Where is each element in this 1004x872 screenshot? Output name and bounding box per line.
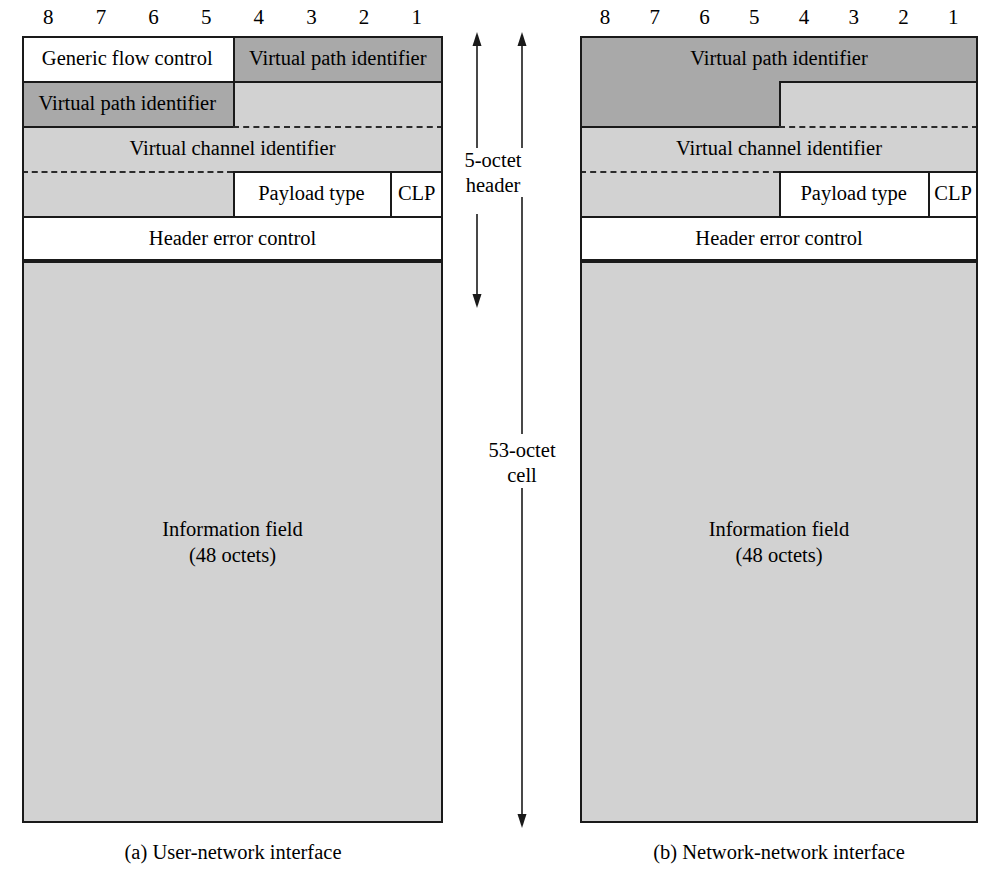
b-header-frame [580,36,978,261]
caption-user-network-interface: (a) User-network interface [22,840,444,865]
atm-cell-format-figure: 87654321 Generic flow controlVirtual pat… [0,0,1004,872]
b-information-field-line2: (48 octets) [582,542,976,568]
caption-network-network-interface: (b) Network-network interface [580,840,978,865]
b-information-field-label: Information field(48 octets) [582,516,976,568]
diagram-network-network-interface: Virtual path identifierVirtual channel i… [0,0,1004,872]
b-information-field-line1: Information field [582,516,976,542]
b-information-field: Information field(48 octets) [580,261,978,823]
